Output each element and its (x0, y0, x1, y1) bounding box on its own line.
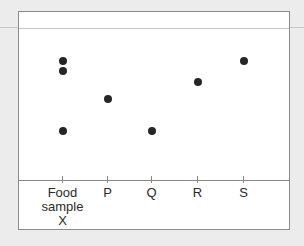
lane-label-r: R (193, 186, 202, 200)
lane-tick-p (107, 176, 108, 183)
lane-label-x: Food sample X (42, 186, 84, 228)
spot-s-6 (240, 57, 248, 65)
spot-p-3 (104, 95, 112, 103)
chromatography-paper: Food sample XPQRS (18, 11, 290, 230)
lane-tick-x (62, 176, 63, 183)
lane-tick-s (243, 176, 244, 183)
spot-food-sample-x-1 (59, 67, 67, 75)
spot-r-5 (194, 78, 202, 86)
solvent-front-line (19, 28, 289, 29)
spot-q-4 (148, 127, 156, 135)
lane-label-q: Q (146, 186, 156, 200)
lane-tick-r (197, 176, 198, 183)
lane-tick-q (151, 176, 152, 183)
lane-label-s: S (239, 186, 248, 200)
lane-label-p: P (103, 186, 112, 200)
baseline (19, 180, 289, 181)
spot-food-sample-x-2 (59, 127, 67, 135)
spot-food-sample-x-0 (59, 57, 67, 65)
